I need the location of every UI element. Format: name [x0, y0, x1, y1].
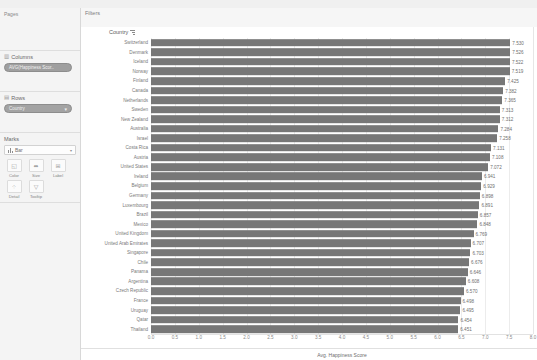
pages-shelf[interactable]: Pages: [0, 8, 80, 51]
marks-button-label[interactable]: ⊞ Label: [48, 159, 68, 178]
bar[interactable]: [151, 220, 477, 228]
bar[interactable]: [151, 316, 458, 324]
row-label-united-kingdom[interactable]: United Kingdom: [81, 231, 151, 236]
columns-shelf[interactable]: ▥ Columns AVG(Happiness Scor..: [0, 51, 80, 92]
row-label-switzerland[interactable]: Switzerland: [81, 40, 151, 45]
bar[interactable]: [151, 77, 505, 85]
row-label-belgium[interactable]: Belgium: [81, 183, 151, 188]
bar-value-label: 7.519: [512, 69, 524, 74]
row-label-iceland[interactable]: Iceland: [81, 59, 151, 64]
row-label-brazil[interactable]: Brazil: [81, 212, 151, 217]
row-label-united-arab-emirates[interactable]: United Arab Emirates: [81, 241, 151, 246]
row-label-norway[interactable]: Norway: [81, 69, 151, 74]
row-label-canada[interactable]: Canada: [81, 88, 151, 93]
bar-value-label: 6.570: [466, 288, 478, 293]
bar-value-label: 6.898: [482, 193, 494, 198]
bar[interactable]: [151, 39, 510, 47]
row-label-denmark[interactable]: Denmark: [81, 50, 151, 55]
bar[interactable]: [151, 239, 471, 247]
bar[interactable]: [151, 115, 500, 123]
row-label-australia[interactable]: Australia: [81, 126, 151, 131]
row-label-netherlands[interactable]: Netherlands: [81, 98, 151, 103]
row-label-austria[interactable]: Austria: [81, 155, 151, 160]
x-axis-tick: 5.0: [387, 335, 393, 340]
bar[interactable]: [151, 230, 474, 238]
row-label-france[interactable]: France: [81, 298, 151, 303]
bar-track: 7.108: [151, 153, 537, 163]
bar[interactable]: [151, 287, 464, 295]
chevron-down-icon[interactable]: ▾: [70, 148, 72, 153]
x-axis-tick: 3.0: [291, 335, 297, 340]
row-label-united-states[interactable]: United States: [81, 164, 151, 169]
bar[interactable]: [151, 201, 479, 209]
row-label-panama[interactable]: Panama: [81, 269, 151, 274]
bar[interactable]: [151, 278, 466, 286]
marks-button-detail[interactable]: ⁘ Detail: [4, 180, 24, 199]
table-row: Belgium6.929: [81, 181, 537, 191]
bar-track: 6.454: [151, 315, 537, 325]
bar[interactable]: [151, 49, 510, 57]
sort-descending-icon[interactable]: [130, 30, 135, 35]
bar[interactable]: [151, 173, 482, 181]
row-label-new-zealand[interactable]: New Zealand: [81, 117, 151, 122]
row-label-czech-republic[interactable]: Czech Republic: [81, 288, 151, 293]
row-label-luxembourg[interactable]: Luxembourg: [81, 203, 151, 208]
row-label-germany[interactable]: Germany: [81, 193, 151, 198]
pill-avg-happiness-score[interactable]: AVG(Happiness Scor..: [4, 63, 72, 72]
pill-country[interactable]: Country ▾: [4, 104, 72, 113]
bar[interactable]: [151, 144, 491, 152]
row-label-thailand[interactable]: Thailand: [81, 327, 151, 332]
bar[interactable]: [151, 249, 470, 257]
bar[interactable]: [151, 96, 502, 104]
bar[interactable]: [151, 297, 461, 305]
bar[interactable]: [151, 125, 498, 133]
bar[interactable]: [151, 259, 469, 267]
mark-type-dropdown[interactable]: Bar ▾: [4, 145, 76, 155]
row-label-qatar[interactable]: Qatar: [81, 317, 151, 322]
bar-track: 7.313: [151, 105, 537, 115]
bar[interactable]: [151, 192, 480, 200]
bar[interactable]: [151, 87, 503, 95]
bar[interactable]: [151, 325, 458, 333]
bar[interactable]: [151, 58, 510, 66]
bar[interactable]: [151, 154, 490, 162]
bar-track: 6.707: [151, 238, 537, 248]
row-label-sweden[interactable]: Sweden: [81, 107, 151, 112]
row-field-header[interactable]: Country: [109, 29, 135, 35]
row-label-singapore[interactable]: Singapore: [81, 250, 151, 255]
bar[interactable]: [151, 182, 481, 190]
bar[interactable]: [151, 134, 497, 142]
marks-button-color[interactable]: ◱ Color: [4, 159, 24, 178]
bar[interactable]: [151, 106, 500, 114]
chart-canvas: Country Switzerland7.530Denmark7.526Icel…: [81, 27, 537, 360]
row-label-ireland[interactable]: Ireland: [81, 174, 151, 179]
bar-value-label: 6.703: [472, 250, 484, 255]
row-label-uruguay[interactable]: Uruguay: [81, 308, 151, 313]
bar-value-label: 7.312: [502, 117, 514, 122]
bar-value-label: 6.646: [470, 269, 482, 274]
bar[interactable]: [151, 268, 468, 276]
row-label-mexico[interactable]: Mexico: [81, 222, 151, 227]
row-label-argentina[interactable]: Argentina: [81, 279, 151, 284]
table-row: New Zealand7.312: [81, 114, 537, 124]
bar[interactable]: [151, 68, 510, 76]
table-row: United Arab Emirates6.707: [81, 238, 537, 248]
marks-button-size[interactable]: ⬌ Size: [26, 159, 46, 178]
row-label-costa-rica[interactable]: Costa Rica: [81, 145, 151, 150]
marks-button-tooltip[interactable]: ▽ Tooltip: [26, 180, 46, 199]
rows-shelf[interactable]: ▤ Rows Country ▾: [0, 92, 80, 133]
bar-track: 6.941: [151, 172, 537, 182]
bar-track: 6.848: [151, 219, 537, 229]
row-label-chile[interactable]: Chile: [81, 260, 151, 265]
table-row: Iceland7.522: [81, 57, 537, 67]
row-label-israel[interactable]: Israel: [81, 136, 151, 141]
x-axis-title: Avg. Happiness Score: [151, 352, 533, 358]
chevron-down-icon[interactable]: ▾: [64, 106, 67, 112]
x-axis-tick: 4.5: [363, 335, 369, 340]
row-label-finland[interactable]: Finland: [81, 78, 151, 83]
table-row: Denmark7.526: [81, 48, 537, 58]
bar[interactable]: [151, 306, 460, 314]
bar[interactable]: [151, 163, 488, 171]
bar-value-label: 6.848: [479, 222, 491, 227]
bar[interactable]: [151, 211, 478, 219]
